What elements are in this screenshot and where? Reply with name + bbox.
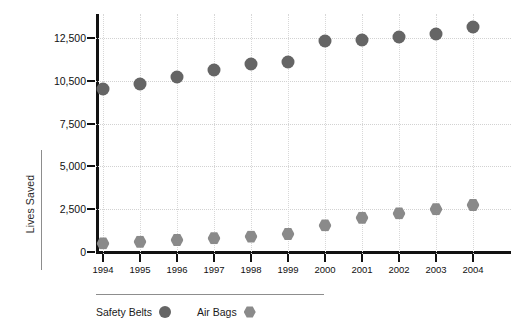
horizontal-gridline (96, 81, 511, 82)
vertical-gridline (251, 14, 252, 254)
y-axis-tick-label: 12,500 (30, 32, 86, 44)
x-axis-tick-label: 2003 (416, 264, 456, 275)
data-point (319, 35, 332, 48)
y-axis-tick-mark (87, 165, 95, 167)
vertical-gridline (288, 14, 289, 254)
horizontal-gridline (96, 124, 511, 125)
horizontal-gridline (96, 166, 511, 167)
x-axis-tick-label: 1996 (157, 264, 197, 275)
data-point (393, 30, 406, 43)
x-axis-tick-label: 1995 (120, 264, 160, 275)
data-point (282, 55, 295, 68)
data-point (245, 57, 258, 70)
data-point (134, 235, 147, 248)
data-point (282, 228, 295, 241)
y-axis-tick-mark (87, 208, 95, 210)
x-axis-tick-label: 1994 (83, 264, 123, 275)
vertical-gridline (103, 14, 104, 254)
x-axis-tick-mark (472, 254, 474, 262)
legend-item-label: Air Bags (197, 306, 237, 318)
lives-saved-scatter-chart: Lives Saved 02,5005,0007,50010,50012,500… (0, 0, 522, 332)
x-axis-tick-mark (398, 254, 400, 262)
y-axis-tick-mark (87, 80, 95, 82)
vertical-gridline (214, 14, 215, 254)
x-axis-tick-mark (324, 254, 326, 262)
x-axis-tick-label: 1999 (268, 264, 308, 275)
data-point (430, 203, 443, 216)
data-point (97, 237, 110, 250)
x-axis-tick-label: 1998 (231, 264, 271, 275)
y-axis-tick-label: 7,500 (30, 118, 86, 130)
data-point (356, 211, 369, 224)
x-axis-tick-mark (213, 254, 215, 262)
x-axis-tick-label: 2002 (379, 264, 419, 275)
data-point (319, 219, 332, 232)
legend-items: Safety BeltsAir Bags (96, 302, 324, 322)
horizontal-gridline (96, 38, 511, 39)
data-point (171, 70, 184, 83)
data-point (171, 234, 184, 247)
legend-circle-marker-icon (159, 306, 171, 318)
data-point (467, 21, 480, 34)
legend-hexagon-marker-icon (244, 306, 256, 318)
x-axis-tick-mark (287, 254, 289, 262)
data-point (430, 27, 443, 40)
x-axis-tick-label: 2001 (342, 264, 382, 275)
vertical-gridline (473, 14, 474, 254)
y-axis-tick-label: 0 (30, 246, 86, 258)
y-axis-tick-label: 10,500 (30, 75, 86, 87)
vertical-gridline (436, 14, 437, 254)
vertical-gridline (325, 14, 326, 254)
legend-item[interactable]: Safety Belts (96, 306, 171, 318)
x-axis-tick-label: 2004 (453, 264, 493, 275)
data-point (208, 64, 221, 77)
y-axis-tick-label: 2,500 (30, 203, 86, 215)
x-axis-tick-mark (176, 254, 178, 262)
legend-item[interactable]: Air Bags (197, 306, 256, 318)
y-axis-tick-labels: 02,5005,0007,50010,50012,500 (30, 0, 86, 332)
x-axis-tick-mark (435, 254, 437, 262)
x-axis-tick-mark (102, 254, 104, 262)
x-axis-tick-label: 1997 (194, 264, 234, 275)
chart-legend: Safety BeltsAir Bags (96, 294, 324, 324)
x-axis-tick-label: 2000 (305, 264, 345, 275)
data-point (356, 34, 369, 47)
y-axis-tick-mark (87, 123, 95, 125)
x-axis-tick-mark (139, 254, 141, 262)
y-axis-tick-mark (87, 251, 95, 253)
vertical-gridline (177, 14, 178, 254)
y-axis-tick-mark (87, 37, 95, 39)
data-point (134, 77, 147, 90)
data-point (97, 83, 110, 96)
x-axis-tick-mark (361, 254, 363, 262)
data-point (245, 230, 258, 243)
data-point (208, 232, 221, 245)
x-axis-tick-mark (250, 254, 252, 262)
legend-item-label: Safety Belts (96, 306, 152, 318)
y-axis-tick-label: 5,000 (30, 160, 86, 172)
plot-area (96, 14, 511, 254)
horizontal-gridline (96, 209, 511, 210)
legend-divider (96, 294, 324, 295)
vertical-gridline (140, 14, 141, 254)
